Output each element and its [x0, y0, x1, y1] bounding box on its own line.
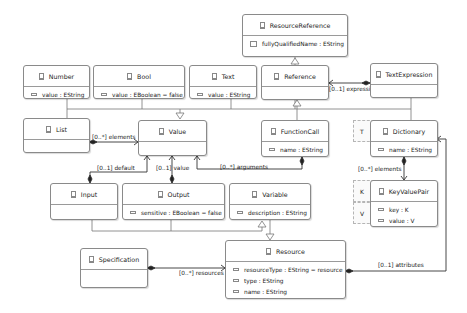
class-name: Reference — [284, 73, 316, 80]
composition-diamond — [88, 175, 92, 183]
composition-diamond — [89, 140, 97, 144]
class-name: Variable — [262, 191, 288, 198]
class-variable[interactable]: Variable description : EString — [229, 183, 311, 220]
class-icon — [252, 191, 257, 198]
composition-diamond — [147, 266, 155, 270]
attribute-text: value : EString — [208, 92, 250, 98]
attribute-row[interactable]: key : K — [371, 204, 437, 215]
attribute-row[interactable]: name : EString — [262, 144, 328, 155]
label-resources: [0..*] resources — [179, 270, 224, 276]
class-dictionary[interactable]: Dictionary name : EString — [370, 120, 438, 157]
label-attributes: [0..1] attributes — [378, 262, 424, 268]
class-icon — [159, 128, 164, 135]
attribute-icon — [101, 93, 107, 97]
label-list-elements: [0..*] elements — [92, 134, 136, 140]
class-name: KeyValuePair — [389, 188, 429, 195]
class-function-call[interactable]: FunctionCall name : EString — [261, 120, 329, 157]
class-name: TextExpression — [386, 71, 433, 78]
class-icon — [39, 73, 44, 80]
class-list[interactable]: List — [23, 118, 90, 153]
attribute-icon — [31, 93, 37, 97]
class-value[interactable]: Value — [138, 120, 207, 156]
attribute-icon — [130, 211, 136, 215]
class-output[interactable]: Output sensitive : EBoolean = false — [122, 183, 225, 220]
class-icon — [274, 73, 279, 80]
class-icon — [158, 191, 163, 198]
attribute-row[interactable]: value : V — [371, 215, 437, 226]
class-name: List — [56, 126, 67, 133]
attribute-icon — [269, 148, 275, 152]
attribute-text: type : EString — [244, 278, 284, 284]
attribute-icon — [233, 279, 239, 283]
attribute-row[interactable]: value : EString — [190, 89, 256, 100]
class-name: ResourceReference — [270, 22, 331, 29]
attribute-text: resourceType : EString = resource — [244, 267, 343, 273]
class-resource[interactable]: Resource resourceType : EString = resour… — [225, 240, 346, 299]
composition-diamond — [362, 81, 370, 85]
class-text-expression[interactable]: TextExpression — [370, 63, 438, 98]
generalization-arrowhead — [176, 113, 184, 119]
attribute-icon — [378, 148, 384, 152]
class-icon — [127, 73, 132, 80]
label-value: [0..1] value — [156, 165, 189, 171]
attribute-row[interactable]: value : EString — [24, 89, 89, 100]
class-name: Output — [168, 191, 190, 198]
class-reference[interactable]: Reference — [261, 65, 329, 100]
attribute-icon — [233, 290, 239, 294]
class-key-value-pair[interactable]: KeyValuePair key : K value : V — [370, 180, 438, 227]
attribute-icon — [197, 93, 203, 97]
class-text[interactable]: Text value : EString — [189, 65, 257, 99]
label-arguments: [0..*] arguments — [220, 164, 268, 170]
class-icon — [266, 248, 271, 255]
attribute-row[interactable]: type : EString — [226, 275, 345, 286]
generalization-arrowhead — [258, 221, 266, 227]
class-input[interactable]: Input — [50, 183, 118, 220]
composition-diamond — [402, 157, 406, 165]
attribute-text: value : EString — [42, 92, 84, 98]
class-name: Resource — [276, 248, 305, 255]
composition-diamond — [345, 269, 353, 273]
attribute-text: value : EBoolean = false — [112, 92, 183, 98]
attribute-text: name : EString — [244, 289, 287, 295]
class-name: Text — [222, 73, 235, 80]
attribute-row[interactable]: name : EString — [226, 286, 345, 297]
attribute-text: name : EString — [280, 147, 323, 153]
class-number[interactable]: Number value : EString — [23, 65, 90, 99]
class-resource-reference[interactable]: ResourceReference fullyQualifiedName : E… — [242, 14, 348, 57]
label-default: [0..1] default — [97, 165, 135, 171]
class-name: Dictionary — [393, 128, 425, 135]
attribute-row[interactable]: fullyQualifiedName : EString — [243, 38, 347, 49]
class-icon — [71, 191, 76, 198]
attribute-text: description : EString — [248, 210, 307, 216]
class-icon — [379, 188, 384, 195]
class-name: Bool — [137, 73, 151, 80]
reference-attribute-icon — [250, 41, 257, 47]
class-name: Number — [49, 73, 74, 80]
attribute-row[interactable]: description : EString — [230, 207, 310, 218]
class-icon — [271, 128, 276, 135]
attribute-icon — [233, 268, 239, 272]
class-name: Input — [81, 191, 97, 198]
class-name: Specification — [99, 256, 139, 263]
attribute-row[interactable]: name : EString — [371, 144, 437, 155]
class-icon — [260, 22, 265, 29]
generalization-input-variable — [92, 220, 262, 231]
class-icon — [89, 256, 94, 263]
class-icon — [46, 126, 51, 133]
class-specification[interactable]: Specification — [80, 248, 148, 288]
attribute-text: name : EString — [389, 147, 432, 153]
attribute-row[interactable]: sensitive : EBoolean = false — [123, 207, 224, 218]
attribute-text: key : K — [389, 207, 409, 213]
class-icon — [383, 128, 388, 135]
attribute-row[interactable]: resourceType : EString = resource — [226, 264, 345, 275]
class-icon — [212, 73, 217, 80]
class-bool[interactable]: Bool value : EBoolean = false — [93, 65, 185, 99]
attribute-icon — [237, 211, 243, 215]
class-icon — [376, 71, 381, 78]
attribute-text: sensitive : EBoolean = false — [141, 210, 222, 216]
attribute-row[interactable]: value : EBoolean = false — [94, 89, 184, 100]
composition-diamond — [170, 175, 174, 183]
attribute-icon — [378, 208, 384, 212]
composition-diamond — [300, 157, 304, 165]
label-dictionary-elements: [0..*] elements — [358, 166, 402, 172]
